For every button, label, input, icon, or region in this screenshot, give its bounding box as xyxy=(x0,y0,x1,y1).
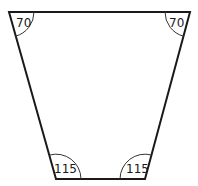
angle-label-bottom-right: 115 xyxy=(126,162,149,176)
trapezoid-outline xyxy=(9,12,190,179)
diagram-canvas: 70 70 115 115 xyxy=(0,0,198,186)
angle-label-top-right: 70 xyxy=(169,16,184,30)
angle-label-top-left: 70 xyxy=(16,16,31,30)
trapezoid-diagram: 70 70 115 115 xyxy=(0,0,198,186)
angle-label-bottom-left: 115 xyxy=(54,162,77,176)
